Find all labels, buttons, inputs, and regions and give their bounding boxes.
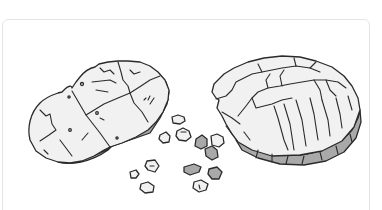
crumb: [211, 134, 224, 147]
crumb-dark: [195, 135, 207, 149]
crumb-dark: [208, 167, 222, 179]
crumb: [130, 170, 139, 178]
crumb: [159, 132, 170, 143]
broken-cookie-illustration: [0, 0, 382, 210]
crumb: [193, 180, 208, 192]
cookie-right-half: [212, 56, 361, 165]
crumb: [172, 115, 185, 124]
crumb: [140, 182, 154, 193]
crumb-dark: [184, 164, 201, 175]
crumb: [176, 128, 191, 141]
crumb-dark: [205, 146, 218, 160]
cookie-left-half: [29, 61, 169, 163]
left-half-top-surface: [29, 61, 169, 163]
